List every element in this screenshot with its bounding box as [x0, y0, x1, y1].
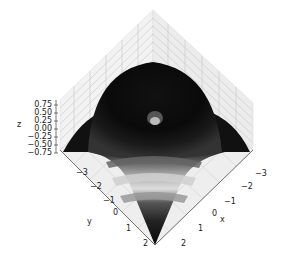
x-tick: 0	[212, 210, 217, 218]
y-tick: 2	[143, 240, 148, 248]
x-tick: −2	[241, 183, 253, 191]
y-tick: −2	[90, 183, 102, 191]
y-axis-label: y	[87, 218, 92, 226]
x-tick: 2	[181, 240, 186, 248]
z-tick: −0.75	[18, 149, 52, 157]
y-tick: −3	[76, 169, 88, 177]
y-tick: 1	[126, 225, 131, 233]
x-tick: 1	[198, 225, 203, 233]
y-tick: 0	[113, 209, 118, 217]
x-tick: −1	[224, 198, 236, 206]
x-axis-label: x	[220, 216, 225, 224]
x-tick: −3	[255, 170, 267, 178]
y-tick: −1	[103, 197, 115, 205]
